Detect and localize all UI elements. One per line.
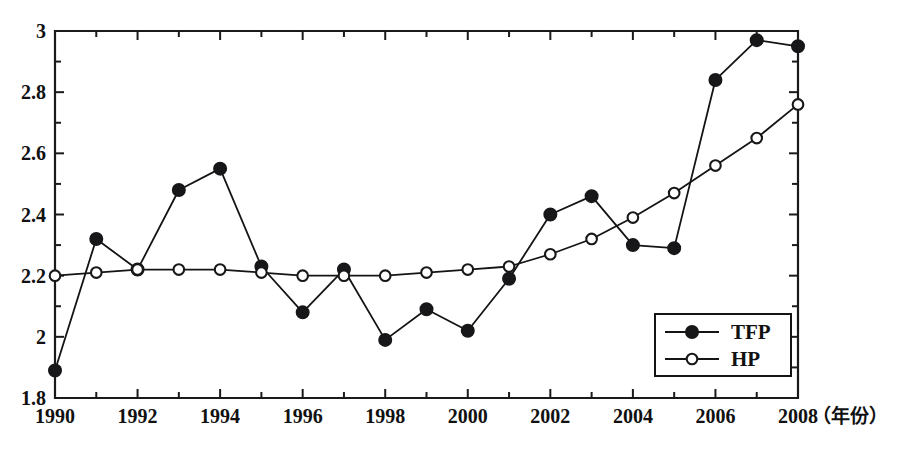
- y-tick-label: 2.4: [21, 204, 46, 226]
- data-point-hp: [132, 264, 143, 275]
- data-point-tfp: [462, 325, 474, 337]
- legend-label-tfp[interactable]: TFP: [731, 320, 771, 344]
- data-point-hp: [91, 267, 102, 278]
- data-point-tfp: [668, 242, 680, 254]
- x-tick-label: 1998: [365, 405, 405, 427]
- x-tick-label: 1990: [35, 405, 75, 427]
- chart-background: [0, 0, 900, 456]
- legend-marker-tfp: [686, 326, 698, 338]
- data-point-tfp: [296, 306, 308, 318]
- x-tick-label: 2002: [530, 405, 570, 427]
- x-tick-label: 1994: [200, 405, 240, 427]
- data-point-tfp: [585, 190, 597, 202]
- data-point-hp: [669, 188, 680, 199]
- data-point-hp: [628, 212, 639, 223]
- data-point-tfp: [420, 303, 432, 315]
- legend-marker-hp: [687, 354, 698, 365]
- chart-legend[interactable]: TFPHP: [655, 314, 791, 376]
- data-point-hp: [339, 270, 350, 281]
- data-point-tfp: [379, 334, 391, 346]
- data-point-hp: [545, 249, 556, 260]
- line-chart: 1.822.22.42.62.83 1990199219941996199820…: [0, 0, 900, 456]
- x-tick-label: 2000: [448, 405, 488, 427]
- data-point-hp: [215, 264, 226, 275]
- y-tick-label: 2: [36, 326, 46, 348]
- data-point-hp: [751, 133, 762, 144]
- data-point-hp: [504, 261, 515, 272]
- data-point-tfp: [173, 184, 185, 196]
- data-point-tfp: [709, 74, 721, 86]
- x-tick-label: 1996: [283, 405, 323, 427]
- data-point-tfp: [503, 273, 515, 285]
- data-point-hp: [297, 270, 308, 281]
- data-point-tfp: [751, 34, 763, 46]
- legend-label-hp[interactable]: HP: [731, 347, 760, 371]
- data-point-tfp: [214, 162, 226, 174]
- data-point-hp: [421, 267, 432, 278]
- data-point-tfp: [544, 208, 556, 220]
- data-point-hp: [380, 270, 391, 281]
- data-point-hp: [50, 270, 61, 281]
- x-tick-label: 1992: [118, 405, 158, 427]
- data-point-tfp: [627, 239, 639, 251]
- x-tick-label: 2006: [695, 405, 735, 427]
- data-point-hp: [174, 264, 185, 275]
- y-tick-label: 3: [36, 20, 46, 42]
- data-point-tfp: [90, 233, 102, 245]
- y-tick-label: 2.6: [21, 142, 46, 164]
- data-point-hp: [793, 99, 804, 110]
- data-point-hp: [462, 264, 473, 275]
- y-tick-label: 2.2: [21, 265, 46, 287]
- data-point-tfp: [49, 364, 61, 376]
- data-point-hp: [586, 234, 597, 245]
- x-axis-label: （年份）: [812, 405, 888, 427]
- y-tick-label: 2.8: [21, 81, 46, 103]
- chart-container: 1.822.22.42.62.83 1990199219941996199820…: [0, 0, 900, 456]
- data-point-hp: [710, 160, 721, 171]
- data-point-hp: [256, 267, 267, 278]
- data-point-tfp: [792, 40, 804, 52]
- x-tick-label: 2004: [613, 405, 653, 427]
